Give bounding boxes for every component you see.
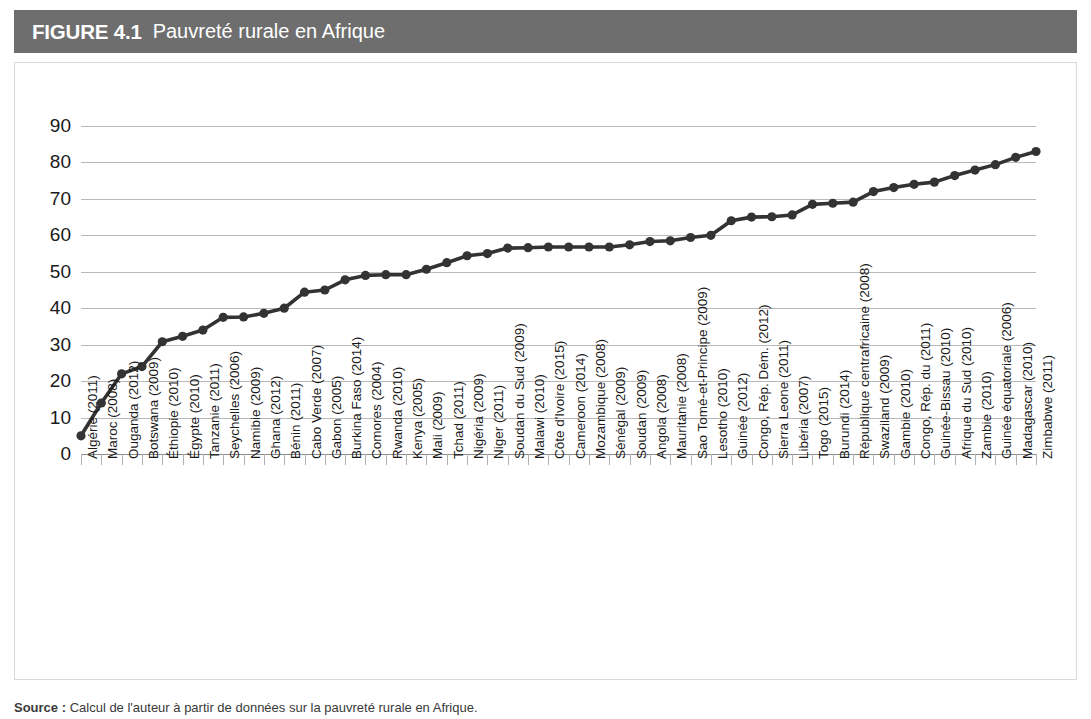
data-point: [483, 249, 492, 258]
x-axis-label: Bénin (2011): [289, 383, 303, 459]
x-axis-label: Madagascar (2010): [1021, 342, 1035, 459]
x-axis-label: Nigéria (2009): [472, 373, 486, 459]
x-axis-label: Cameroon (2014): [574, 353, 588, 459]
data-point: [381, 270, 390, 279]
data-point: [158, 337, 167, 346]
x-axis-label: Ouganda (2012): [127, 361, 141, 459]
data-point: [706, 231, 715, 240]
x-axis-label: Algérie (2011): [86, 375, 100, 459]
x-axis-label: Namibie (2009): [249, 367, 263, 459]
x-axis-label: Burkina Faso (2014): [350, 337, 364, 459]
chart-area: 9080706050403020100 Algérie (2011)Maroc …: [14, 62, 1077, 680]
data-point: [605, 242, 614, 251]
y-tick-label-70: 70: [50, 188, 71, 210]
data-point: [239, 312, 248, 321]
data-point: [909, 180, 918, 189]
x-axis-label: Tanzanie (2011): [208, 363, 222, 459]
x-axis-label: Éthiopie (2010): [167, 367, 181, 459]
x-axis-label: Mozambique (2008): [594, 339, 608, 459]
figure-title: Pauvreté rurale en Afrique: [153, 20, 385, 43]
data-point: [523, 243, 532, 252]
data-point: [869, 187, 878, 196]
x-axis-label: Burundi (2014): [838, 370, 852, 459]
data-point: [889, 183, 898, 192]
data-point: [970, 165, 979, 174]
data-point: [503, 243, 512, 252]
y-tick-label-80: 80: [50, 151, 71, 173]
data-point: [219, 313, 228, 322]
data-point: [788, 210, 797, 219]
source-text: Calcul de l'auteur à partir de données s…: [70, 700, 478, 715]
x-axis-label: Côte d'Ivoire (2015): [553, 341, 567, 459]
data-point: [727, 216, 736, 225]
x-axis-label: Angola (2008): [655, 374, 669, 459]
x-axis-label: Congo, Rép. du (2011): [919, 323, 933, 459]
x-axis-label: Soudan du Sud (2009): [513, 323, 527, 459]
data-point: [930, 178, 939, 187]
x-axis-label: Sao Tomé-et-Principe (2009): [696, 287, 710, 459]
x-axis-label: Guinée (2012): [736, 373, 750, 459]
data-point: [462, 251, 471, 260]
x-axis-label: Soudan (2009): [635, 370, 649, 459]
data-point: [991, 160, 1000, 169]
x-axis-label: Malawi (2010): [533, 374, 547, 459]
x-axis-label: Guinée-Bissau (2010): [939, 328, 953, 459]
data-point: [625, 240, 634, 249]
x-axis-label: Mauritanie (2008): [675, 353, 689, 459]
y-tick-label-40: 40: [50, 297, 71, 319]
data-point: [117, 369, 126, 378]
x-axis-label: Comores (2004): [370, 361, 384, 459]
x-tick: [1036, 454, 1037, 465]
x-axis-label: Botswana (2009): [147, 357, 161, 459]
data-point: [422, 265, 431, 274]
x-axis-label: Zimbabwe (2011): [1041, 355, 1055, 459]
x-axis-label: République centrafricaine (2008): [858, 263, 872, 459]
x-axis-label: Égypte (2010): [188, 374, 202, 459]
figure-header: FIGURE 4.1 Pauvreté rurale en Afrique: [14, 10, 1077, 53]
data-point: [442, 258, 451, 267]
x-axis-label: Gambie (2010): [899, 369, 913, 459]
x-axis-label: Maroc (2008): [106, 379, 120, 459]
x-axis-label: Niger (2011): [492, 385, 506, 459]
figure-number: FIGURE 4.1: [32, 20, 142, 44]
y-tick-label-10: 10: [50, 407, 71, 429]
x-axis-label: Sénégal (2009): [614, 367, 628, 459]
x-axis-label: Guinée équatoriale (2006): [1000, 302, 1014, 459]
source-label: Source :: [14, 700, 66, 715]
data-point: [828, 199, 837, 208]
data-point: [1011, 153, 1020, 162]
x-axis-label: Togo (2015): [817, 387, 831, 459]
x-axis-label: Swaziland (2009): [878, 355, 892, 459]
data-point: [645, 237, 654, 246]
data-point: [564, 242, 573, 251]
x-axis-labels: Algérie (2011)Maroc (2008)Ouganda (2012)…: [81, 459, 1036, 669]
data-point: [402, 270, 411, 279]
x-axis-label: Sierra Leone (2011): [777, 340, 791, 459]
data-point: [280, 304, 289, 313]
x-axis-label: Kenya (2005): [411, 378, 425, 459]
data-point: [544, 242, 553, 251]
data-point: [361, 271, 370, 280]
x-axis-label: Ghana (2012): [269, 376, 283, 459]
data-point: [686, 233, 695, 242]
data-point: [320, 285, 329, 294]
x-axis-label: Afrique du Sud (2010): [960, 327, 974, 459]
data-point: [849, 198, 858, 207]
data-point: [584, 242, 593, 251]
x-axis-label: Tchad (2011): [452, 381, 466, 459]
x-axis-label: Congo, Rép. Dém. (2012): [757, 304, 771, 459]
data-point: [767, 212, 776, 221]
data-point: [259, 309, 268, 318]
y-tick-label-0: 0: [60, 443, 71, 465]
x-axis-label: Rwanda (2010): [391, 367, 405, 459]
y-axis: 9080706050403020100: [15, 126, 71, 454]
x-axis-label: Mali (2009): [431, 391, 445, 459]
y-tick-label-90: 90: [50, 115, 71, 137]
source-caption: Source : Calcul de l'auteur à partir de …: [14, 700, 1077, 715]
data-point: [341, 275, 350, 284]
data-point: [950, 171, 959, 180]
x-axis-label: Lesotho (2010): [716, 368, 730, 459]
data-point: [300, 288, 309, 297]
x-axis-label: Libéria (2007): [797, 376, 811, 459]
x-axis-label: Seychelles (2006): [228, 351, 242, 459]
